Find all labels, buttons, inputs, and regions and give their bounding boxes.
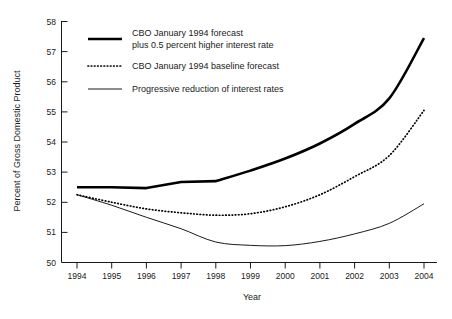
y-axis-title: Percent of Gross Domestic Product: [12, 70, 22, 212]
y-tick-label: 57: [47, 47, 57, 57]
y-tick-label: 50: [47, 258, 57, 268]
x-tick-label: 2000: [276, 271, 295, 281]
x-axis-title: Year: [243, 292, 261, 302]
x-tick-label: 1995: [102, 271, 121, 281]
x-tick-label: 1996: [137, 271, 156, 281]
legend-label-line1: CBO January 1994 baseline forecast: [132, 61, 280, 71]
y-tick-label: 58: [47, 17, 57, 27]
x-tick-label: 2002: [345, 271, 364, 281]
x-tick-label: 1997: [172, 271, 191, 281]
chart-container: 58 57 56 55 54 53 52 51 50 1994: [0, 0, 452, 319]
y-tick-label: 53: [47, 167, 57, 177]
y-tick-label: 51: [47, 227, 57, 237]
x-tick-label: 2003: [380, 271, 399, 281]
x-tick-label: 2001: [310, 271, 329, 281]
x-tick-label: 2004: [415, 271, 434, 281]
y-tick-label: 52: [47, 197, 57, 207]
x-tick-label: 1999: [241, 271, 260, 281]
x-tick-label: 1994: [68, 271, 87, 281]
legend-label-line2: plus 0.5 percent higher interest rate: [132, 40, 274, 50]
line-chart: 58 57 56 55 54 53 52 51 50 1994: [0, 0, 452, 319]
y-tick-label: 55: [47, 107, 57, 117]
x-tick-label: 1998: [206, 271, 225, 281]
legend-label-line1: CBO January 1994 forecast: [132, 28, 244, 38]
y-tick-labels: 58 57 56 55 54 53 52 51 50: [47, 17, 57, 268]
legend-label-line1: Progressive reduction of interest rates: [132, 84, 284, 94]
y-tick-label: 56: [47, 77, 57, 87]
y-tick-label: 54: [47, 137, 57, 147]
